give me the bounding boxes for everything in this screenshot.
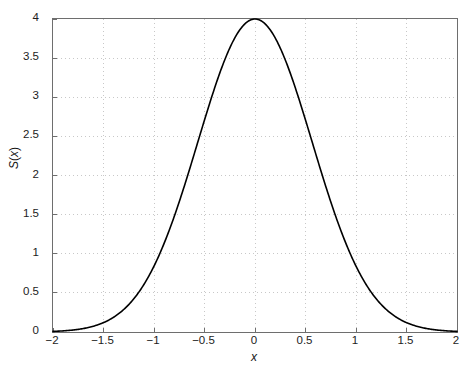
data-curve: [53, 19, 457, 332]
y-axis-label-function: S: [7, 161, 21, 169]
y-axis-label-variable: x: [7, 151, 21, 157]
plot-area: [52, 18, 458, 333]
x-tick-label: 0: [251, 335, 257, 347]
x-tick-label: −0.5: [192, 335, 215, 347]
y-tick-label: 0: [33, 325, 46, 337]
x-tick-label: 2: [453, 335, 459, 347]
figure-canvas: 00.511.522.533.54 −2−1.5−1−0.500.511.52 …: [0, 0, 474, 371]
y-axis-label-paren-open: (: [7, 157, 21, 161]
x-axis-label: x: [52, 350, 456, 364]
y-tick-label: 0.5: [23, 286, 46, 298]
caption-ghost: [70, 363, 410, 370]
x-tick-label: 1: [352, 335, 358, 347]
x-tick-label: −1.5: [91, 335, 114, 347]
x-tick-label: 0.5: [297, 335, 313, 347]
y-tick-label: 2: [33, 169, 46, 181]
y-tick-label: 3.5: [23, 51, 46, 63]
y-axis-label-paren-close: ): [7, 147, 21, 151]
x-axis-tick-labels: −2−1.5−1−0.500.511.52: [52, 335, 456, 351]
y-tick-label: 3: [33, 90, 46, 102]
x-tick-label: −1: [146, 335, 159, 347]
x-tick-label: −2: [45, 335, 58, 347]
y-axis-label-wrapper: S(x): [4, 128, 24, 188]
y-tick-label: 1.5: [23, 208, 46, 220]
y-axis-label: S(x): [7, 147, 21, 169]
y-tick-label: 2.5: [23, 129, 46, 141]
x-tick-label: 1.5: [398, 335, 414, 347]
y-tick-label: 4: [33, 12, 46, 24]
y-tick-label: 1: [33, 247, 46, 259]
